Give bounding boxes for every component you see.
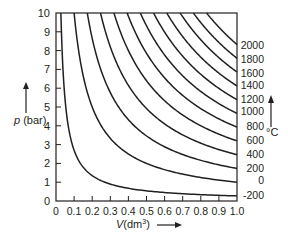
temperature-axis-label-group: °C [266, 95, 278, 138]
temperature-label: 2000 [241, 39, 265, 51]
isotherm-curve [127, 13, 237, 127]
temperature-labels: 2000180016001400120010008006004002000-20… [241, 39, 265, 201]
y-tick-label: 0 [44, 195, 50, 207]
y-tick-label: 5 [44, 101, 50, 113]
x-tick-label: 1.0 [230, 205, 245, 217]
isotherm-curve [193, 13, 237, 58]
temperature-label: 0 [258, 174, 264, 186]
x-axis-label: V(dm3) [116, 218, 150, 230]
x-tick-label: 0.2 [85, 205, 100, 217]
x-tick-label: 0.3 [103, 205, 118, 217]
isotherm-curve [74, 13, 237, 182]
up-arrow-head-icon [268, 95, 274, 103]
y-tick-label: 2 [44, 157, 50, 169]
isotherm-curves [61, 13, 237, 196]
isotherm-curve [114, 13, 237, 141]
isotherm-curve [207, 13, 237, 45]
y-axis-ticks: 012345678910 [38, 7, 61, 207]
temperature-label: 1200 [241, 93, 265, 105]
y-tick-label: 7 [44, 63, 50, 75]
y-axis-label-group: p (bar) [13, 82, 46, 126]
plot-frame [56, 13, 237, 201]
x-axis-label-group: V(dm3) [116, 218, 182, 230]
x-axis-ticks: 00.10.20.30.40.50.60.70.80.91.0 [53, 196, 244, 217]
x-tick-label: 0.7 [175, 205, 190, 217]
isotherm-chart: 012345678910 00.10.20.30.40.50.60.70.80.… [0, 0, 288, 239]
isotherm-curve [61, 13, 237, 196]
right-arrow-head-icon [175, 222, 182, 228]
y-tick-label: 3 [44, 139, 50, 151]
temperature-label: 1000 [241, 105, 265, 117]
isotherm-curve [87, 13, 237, 168]
temperature-label: 600 [246, 134, 264, 146]
temperature-label: 800 [246, 120, 264, 132]
temperature-unit-label: °C [266, 126, 278, 138]
temperature-label: 1400 [241, 79, 265, 91]
x-tick-label: 0.6 [157, 205, 172, 217]
y-tick-label: 6 [44, 82, 50, 94]
y-tick-label: 1 [44, 176, 50, 188]
x-tick-label: 0.1 [67, 205, 82, 217]
temperature-label: 200 [246, 162, 264, 174]
temperature-label: 1800 [241, 53, 265, 65]
temperature-label: 400 [246, 148, 264, 160]
y-tick-label: 8 [44, 45, 50, 57]
x-tick-label: 0.8 [193, 205, 208, 217]
x-tick-label: 0.9 [212, 205, 227, 217]
y-axis-label: p (bar) [13, 114, 46, 126]
up-arrow-head-icon [23, 82, 29, 89]
x-tick-label: 0.5 [139, 205, 154, 217]
y-tick-label: 10 [38, 7, 50, 19]
x-tick-label: 0 [53, 205, 59, 217]
x-tick-label: 0.4 [121, 205, 136, 217]
y-tick-label: 9 [44, 26, 50, 38]
temperature-label: -200 [243, 189, 264, 201]
temperature-label: 1600 [241, 67, 265, 79]
